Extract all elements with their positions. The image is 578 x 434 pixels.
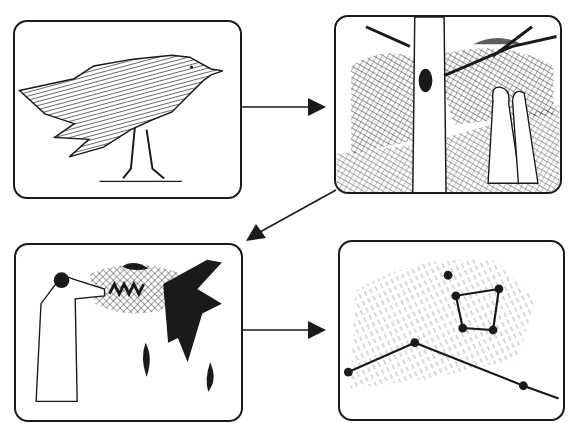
tree-figures-illustration [336, 17, 560, 192]
constellation-illustration [340, 242, 563, 419]
panel-spell [14, 243, 243, 422]
arrow-p2-to-p3 [246, 190, 336, 241]
arrow-p3-to-p4 [243, 321, 326, 339]
spell-illustration [16, 245, 241, 420]
panel-constellation [338, 240, 565, 421]
crow-illustration [15, 22, 240, 197]
panel-crow [13, 20, 242, 199]
arrow-p1-to-p2 [242, 98, 326, 116]
panel-tree-figures [334, 15, 562, 194]
